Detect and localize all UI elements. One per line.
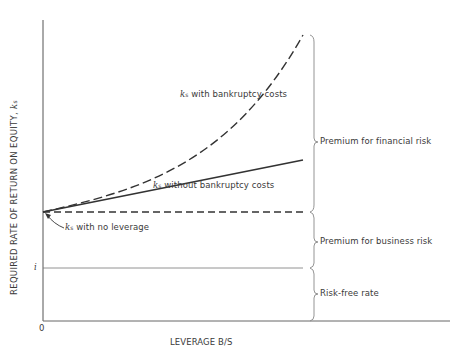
risk-free-tick-label: i bbox=[34, 262, 37, 272]
x-axis-label: LEVERAGE B/S bbox=[170, 337, 232, 347]
label-without-bankruptcy: ks without bankruptcy costs bbox=[153, 180, 274, 190]
k-sub: s bbox=[70, 224, 73, 231]
label-financial-risk: Premium for financial risk bbox=[320, 136, 431, 146]
y-axis-symbol: k bbox=[9, 104, 19, 109]
y-axis-symbol-sub: s bbox=[11, 100, 18, 103]
label-text: with no leverage bbox=[76, 222, 149, 232]
y-axis-label: REQUIRED RATE OF RETURN ON EQUITY, ks bbox=[9, 100, 19, 295]
label-business-risk: Premium for business risk bbox=[320, 236, 432, 246]
label-with-bankruptcy: ks with bankruptcy costs bbox=[180, 89, 287, 99]
no-leverage-arrow bbox=[47, 215, 64, 228]
brace-business-risk bbox=[310, 212, 318, 268]
brace-risk-free bbox=[310, 268, 318, 321]
label-risk-free: Risk-free rate bbox=[320, 288, 379, 298]
origin-label: 0 bbox=[39, 323, 45, 333]
brace-financial-risk bbox=[310, 35, 318, 212]
label-text: without bankruptcy costs bbox=[164, 180, 274, 190]
label-no-leverage: ks with no leverage bbox=[65, 222, 149, 232]
label-text: with bankruptcy costs bbox=[191, 89, 287, 99]
k-sub: s bbox=[158, 182, 161, 189]
k-sub: s bbox=[185, 91, 188, 98]
y-axis-label-text: REQUIRED RATE OF RETURN ON EQUITY, bbox=[9, 112, 19, 295]
